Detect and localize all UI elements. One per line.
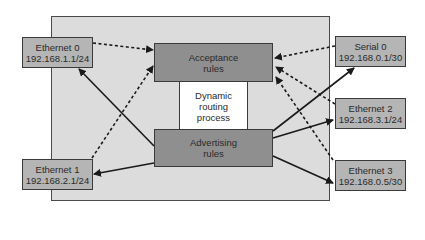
edge-eth0-acceptance — [93, 43, 153, 50]
interface-ethernet-3: Ethernet 3 192.168.0.5/30 — [335, 160, 406, 191]
edge-advertising-eth1 — [94, 163, 154, 174]
advertising-rules-box: Advertising rules — [154, 129, 273, 167]
process-label-1: Dynamic — [195, 90, 232, 101]
interface-address: 192.168.3.1/24 — [339, 114, 402, 125]
interface-address: 192.168.0.1/30 — [339, 52, 402, 63]
edge-eth2-acceptance — [276, 67, 335, 104]
interface-name: Ethernet 0 — [36, 42, 80, 53]
edge-advertising-eth2 — [273, 120, 333, 138]
interface-name: Ethernet 2 — [349, 103, 393, 114]
edge-eth3-acceptance — [276, 77, 333, 160]
advertising-label-2: rules — [203, 148, 224, 159]
acceptance-label-1: Acceptance — [189, 52, 239, 63]
interface-name: Serial 0 — [354, 41, 386, 52]
interface-address: 192.168.2.1/24 — [26, 175, 89, 186]
interface-name: Ethernet 1 — [36, 164, 80, 175]
interface-name: Ethernet 3 — [349, 165, 393, 176]
edge-advertising-eth3 — [273, 156, 333, 183]
interface-address: 192.168.0.5/30 — [339, 176, 402, 187]
interface-ethernet-2: Ethernet 2 192.168.3.1/24 — [335, 98, 406, 129]
dynamic-routing-process-box: Dynamic routing process — [179, 82, 248, 130]
advertising-label-1: Advertising — [190, 137, 237, 148]
process-label-2: routing — [199, 101, 228, 112]
interface-address: 192.168.1.1/24 — [26, 53, 89, 64]
interface-ethernet-1: Ethernet 1 192.168.2.1/24 — [22, 159, 93, 190]
acceptance-rules-box: Acceptance rules — [154, 43, 273, 82]
process-label-3: process — [197, 112, 230, 123]
interface-ethernet-0: Ethernet 0 192.168.1.1/24 — [22, 37, 93, 68]
edge-ser0-acceptance — [275, 46, 335, 58]
interface-serial-0: Serial 0 192.168.0.1/30 — [335, 36, 406, 67]
acceptance-label-2: rules — [203, 63, 224, 74]
edge-advertising-eth0 — [79, 69, 154, 146]
edge-eth1-acceptance — [92, 66, 153, 158]
